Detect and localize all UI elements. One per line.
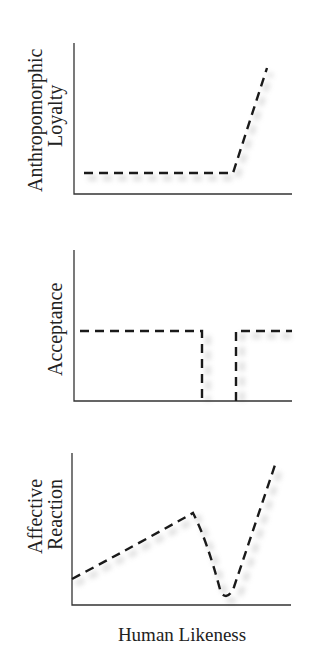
y-axis-label-line2: Reaction [44, 479, 66, 550]
y-axis-label-line1: Affective [24, 479, 46, 554]
loyalty-curve [84, 68, 267, 173]
panel-affective-reaction: Affective Reaction Human Likeness [24, 453, 291, 645]
uncanny-valley-figure: Anthropomorphic Loyalty Acceptance Affec… [0, 0, 309, 659]
panel-anthropomorphic-loyalty: Anthropomorphic Loyalty [24, 43, 292, 194]
y-axis-label: Acceptance [44, 283, 67, 376]
axes [72, 453, 291, 605]
acceptance-curve-left [80, 331, 202, 401]
x-axis-label: Human Likeness [118, 624, 246, 645]
axes [74, 250, 292, 401]
y-axis-label-line2: Loyalty [44, 85, 67, 147]
panel-acceptance: Acceptance [44, 250, 296, 401]
